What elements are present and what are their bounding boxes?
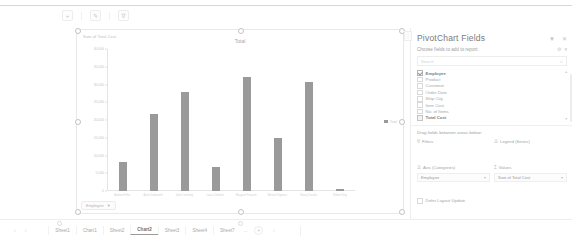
y-tick-label: 30,000 xyxy=(94,83,104,87)
bar[interactable] xyxy=(274,138,282,191)
chart-elements-icon[interactable]: + xyxy=(62,10,73,21)
sheet-tabs-ellipsis: … xyxy=(241,228,252,233)
scroll-down-icon[interactable]: ▼ xyxy=(565,117,568,121)
field-checkbox[interactable] xyxy=(417,109,423,115)
gear-icon[interactable]: ⚙ xyxy=(557,46,561,52)
sheet-nav-next-icon[interactable]: › xyxy=(25,227,27,233)
bar[interactable] xyxy=(243,77,251,191)
chart-styles-icon[interactable]: ✎ xyxy=(90,10,101,21)
field-list-scrollbar[interactable]: ▲ ▼ xyxy=(566,70,568,121)
sheet-tab-chart1[interactable]: Chart1 xyxy=(76,226,103,235)
area-label: Legend (Series) xyxy=(500,139,530,144)
area-filters[interactable]: ∇Filters xyxy=(417,139,490,165)
area-legend[interactable]: ☰Legend (Series) xyxy=(494,139,567,165)
sheet-tab-chart2[interactable]: Chart2 xyxy=(130,225,158,235)
y-tick-label: 5,000 xyxy=(96,171,105,175)
sheet-tab-sheet1[interactable]: Sheet1 xyxy=(48,226,76,235)
pane-header: PivotChart Fields ▼ ✕ xyxy=(411,28,572,43)
bar[interactable] xyxy=(181,92,189,191)
bar[interactable] xyxy=(150,114,158,191)
tab-tail-icon[interactable]: ‹ xyxy=(273,227,275,233)
search-placeholder: Search xyxy=(421,59,434,64)
sheet-tab-sheet7[interactable]: Sheet7 xyxy=(213,226,241,235)
bar[interactable] xyxy=(212,167,220,191)
excel-pivotchart-screen: + ✎ ∇ Sum of Total Cost Total 05,00010,0… xyxy=(0,0,572,240)
area-field-label: Employee xyxy=(421,175,439,180)
area-label: Values xyxy=(499,165,512,170)
chart-filters-icon[interactable]: ∇ xyxy=(118,10,129,21)
category-label: Anne Dodsworth xyxy=(144,193,163,196)
field-checkbox[interactable] xyxy=(417,90,423,96)
resize-handle-middle-right[interactable] xyxy=(399,119,405,125)
field-label: Item Cost xyxy=(426,103,444,108)
resize-handle-bottom-center[interactable] xyxy=(238,209,244,215)
sheet-tab-sheet2[interactable]: Sheet2 xyxy=(103,226,131,235)
toolbar-divider-2 xyxy=(109,12,110,20)
search-input[interactable]: Search ⌕ xyxy=(417,56,567,66)
category-label: Nancy Davolio xyxy=(300,193,317,196)
sheet-tab-sheet3[interactable]: Sheet3 xyxy=(158,226,186,235)
area-axis[interactable]: ☰Axis (Categories)Employee▾ xyxy=(417,165,490,191)
chart-field-button-label: Employee xyxy=(86,203,104,208)
values-icon: Σ xyxy=(494,165,497,170)
sheet-tabs: Sheet1Chart1Sheet2Chart2Sheet3Sheet4Shee… xyxy=(48,225,240,235)
field-checkbox[interactable] xyxy=(417,70,423,76)
bar-slot[interactable]: Michael Suyama xyxy=(262,49,293,191)
pane-close-icon[interactable]: ✕ xyxy=(562,35,567,42)
area-label: Filters xyxy=(422,139,433,144)
chevron-down-icon[interactable]: ▾ xyxy=(484,175,486,180)
field-list-item[interactable]: Total Cost xyxy=(417,115,567,121)
bar-slot[interactable]: Nancy Davolio xyxy=(293,49,324,191)
area-label: Axis (Categories) xyxy=(423,165,455,170)
area-field-pill[interactable]: Employee▾ xyxy=(417,173,490,182)
field-checkbox[interactable] xyxy=(417,115,423,121)
pane-drag-grip[interactable]: ⋮ xyxy=(404,31,412,41)
legend-swatch xyxy=(384,120,388,123)
defer-layout-row[interactable]: Defer Layout Update xyxy=(411,191,572,204)
bar[interactable] xyxy=(119,162,127,191)
chart-field-button-employee[interactable]: Employee ▼ xyxy=(81,201,116,210)
y-tick-label: 10,000 xyxy=(94,154,104,158)
bar-slot[interactable]: Anne Dodsworth xyxy=(138,49,169,191)
toolbar-divider xyxy=(81,12,82,20)
resize-handle-top-left[interactable] xyxy=(75,28,81,34)
pivotchart-object[interactable]: Sum of Total Cost Total 05,00010,00015,0… xyxy=(76,29,404,214)
chevron-down-icon[interactable]: ▾ xyxy=(561,175,563,180)
bar[interactable] xyxy=(336,189,344,191)
pane-options-icon[interactable]: ▼ xyxy=(549,36,555,42)
areas-grid: ∇Filters☰Legend (Series)☰Axis (Categorie… xyxy=(411,135,572,191)
resize-handle-top-center[interactable] xyxy=(238,28,244,34)
y-tick-label: 0 xyxy=(102,189,104,193)
add-sheet-icon[interactable]: + xyxy=(254,226,263,235)
bar-slot[interactable]: Margaret Peacock xyxy=(231,49,262,191)
area-field-pill[interactable]: Sum of Total Cost▾ xyxy=(494,173,567,182)
defer-layout-checkbox[interactable] xyxy=(417,198,423,204)
field-label: Customer xyxy=(426,83,445,88)
field-checkbox[interactable] xyxy=(417,102,423,108)
field-checkbox[interactable] xyxy=(417,77,423,83)
y-tick-label: 25,000 xyxy=(94,100,104,104)
category-label: Margaret Peacock xyxy=(236,193,257,196)
chart-title: Total xyxy=(77,38,403,44)
field-checkbox[interactable] xyxy=(417,83,423,89)
resize-handle-bottom-left[interactable] xyxy=(75,209,81,215)
legend-label: Total xyxy=(390,120,397,124)
area-header: ☰Axis (Categories) xyxy=(417,165,490,170)
scroll-up-icon[interactable]: ▲ xyxy=(565,70,568,74)
chevron-down-icon[interactable]: ▾ xyxy=(564,46,567,52)
field-checkbox[interactable] xyxy=(417,96,423,102)
sheet-nav-prev-icon[interactable]: ‹ xyxy=(14,227,16,233)
sheet-tab-sheet4[interactable]: Sheet4 xyxy=(185,226,213,235)
area-values[interactable]: ΣValuesSum of Total Cost▾ xyxy=(494,165,567,191)
resize-handle-bottom-right[interactable] xyxy=(399,209,405,215)
bar-slot[interactable]: Laura Callahan xyxy=(200,49,231,191)
bar-slot[interactable]: Robert King xyxy=(324,49,355,191)
chart-floating-toolbar: + ✎ ∇ xyxy=(62,10,129,21)
bar[interactable] xyxy=(305,82,313,191)
y-tick-label: 20,000 xyxy=(94,118,104,122)
bar-slot[interactable]: Andrew Fuller xyxy=(107,49,138,191)
category-label: Robert King xyxy=(333,193,347,196)
tab-end-divider xyxy=(300,226,301,236)
bar-slot[interactable]: Janet Leverling xyxy=(169,49,200,191)
filters-icon: ∇ xyxy=(417,139,420,144)
